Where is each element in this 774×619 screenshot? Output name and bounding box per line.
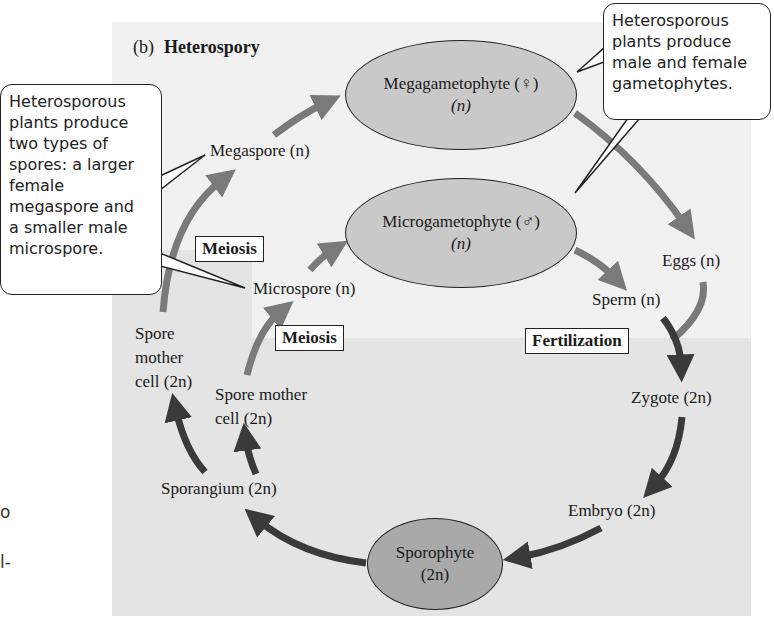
callout-line: Heterosporous (612, 10, 762, 31)
microspore-label: Microspore (n) (253, 278, 355, 299)
spore-mother-cell-outer-label: Spore mother cell (2n) (135, 322, 192, 394)
zygote-label: Zygote (2n) (631, 387, 712, 408)
meiosis-upper-label: Meiosis (195, 236, 264, 262)
spore-mother-outer-line1: Spore (135, 322, 192, 346)
microgametophyte-label: Microgametophyte (♂) (382, 211, 540, 233)
fertilization-label: Fertilization (525, 328, 629, 354)
arrow-sporangium-to-spore-mother-outer (176, 410, 205, 472)
callout-line: male and female (612, 52, 762, 73)
callout-line: plants produce (9, 112, 153, 133)
arrow-microspore-to-microgametophyte (310, 250, 333, 270)
microgametophyte-node: Microgametophyte (♂) (n) (345, 178, 577, 288)
spore-mother-inner-line1: Spore mother (215, 383, 307, 407)
sperm-label: Sperm (n) (592, 289, 660, 310)
callout-line: microspore. (9, 238, 153, 259)
callout-line: gametophytes. (612, 73, 762, 94)
callout-line: two types of (9, 133, 153, 154)
eggs-label: Eggs (n) (662, 250, 720, 271)
callout-line: Heterosporous (9, 91, 153, 112)
spore-mother-inner-line2: cell (2n) (215, 407, 307, 431)
callout-pointer-megaspore (160, 155, 205, 190)
arrow-sporangium-to-spore-mother-inner (246, 440, 256, 474)
meiosis-lower-label: Meiosis (275, 325, 344, 351)
microgametophyte-ploidy: (n) (451, 233, 471, 255)
megagametophyte-node: Megagametophyte (♀) (n) (345, 40, 577, 150)
sporangium-label: Sporangium (2n) (161, 478, 277, 499)
arrow-micro-to-sperm (575, 250, 615, 278)
embryo-label: Embryo (2n) (568, 500, 655, 521)
arrow-embryo-to-sporophyte (520, 528, 601, 557)
arrow-megaspore-to-megagametophyte (274, 103, 325, 135)
callout-line: female (9, 175, 153, 196)
callout-line: a smaller male (9, 217, 153, 238)
callout-gametophytes: Heterosporous plants produce male and fe… (603, 3, 771, 120)
callout-pointer-megagametophyte (577, 48, 604, 72)
callout-line: plants produce (612, 31, 762, 52)
sporophyte-ploidy: (2n) (421, 564, 449, 586)
arrow-eggs-to-fertilization (672, 282, 704, 340)
sporophyte-node: Sporophyte (2n) (367, 518, 503, 610)
arrow-sporophyte-to-sporangium (258, 520, 366, 563)
spore-mother-outer-line3: cell (2n) (135, 370, 192, 394)
arrow-sperm-to-zygote (663, 318, 681, 365)
arrow-zygote-to-embryo (655, 417, 682, 485)
megagametophyte-label: Megagametophyte (♀) (384, 73, 539, 95)
callout-spore-types: Heterosporous plants produce two types o… (0, 84, 162, 295)
spore-mother-cell-inner-label: Spore mother cell (2n) (215, 383, 307, 431)
callout-line: spores: a larger (9, 154, 153, 175)
megaspore-label: Megaspore (n) (210, 140, 310, 161)
spore-mother-outer-line2: mother (135, 346, 192, 370)
sporophyte-label: Sporophyte (396, 542, 474, 564)
callout-line: megaspore and (9, 196, 153, 217)
megagametophyte-ploidy: (n) (451, 95, 471, 117)
